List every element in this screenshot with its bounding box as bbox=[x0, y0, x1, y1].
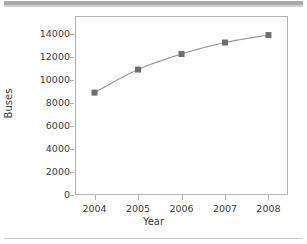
bottom-divider-rule bbox=[4, 238, 303, 239]
series-line-buses bbox=[95, 35, 269, 93]
data-point-marker bbox=[92, 90, 98, 96]
data-point-marker bbox=[179, 51, 185, 57]
data-point-marker bbox=[265, 32, 271, 38]
data-series-layer bbox=[0, 0, 307, 244]
series-markers-buses bbox=[92, 32, 272, 96]
data-point-marker bbox=[222, 40, 228, 46]
x-axis-title: Year bbox=[0, 216, 307, 227]
line-chart-figure: 02000400060008000100001200014000 2004200… bbox=[0, 0, 307, 244]
y-axis-title: Buses bbox=[3, 74, 14, 134]
chart-page: 02000400060008000100001200014000 2004200… bbox=[0, 0, 307, 244]
data-point-marker bbox=[135, 67, 141, 73]
